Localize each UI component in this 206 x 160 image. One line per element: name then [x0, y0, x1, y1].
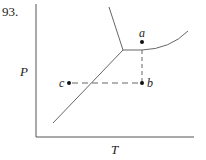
point-a	[140, 40, 144, 44]
point-b	[140, 81, 144, 85]
point-b-label: b	[147, 76, 153, 90]
point-c-label: c	[59, 76, 65, 90]
problem-number: 93.	[2, 4, 18, 19]
x-axis-label: T	[111, 142, 119, 157]
point-a-label: a	[139, 26, 145, 40]
solid-liquid-boundary	[109, 7, 123, 50]
liquid-vapor-boundary	[123, 31, 188, 50]
phase-diagram: 93. P T a b c	[0, 0, 206, 160]
y-axis-label: P	[19, 64, 28, 79]
point-c	[67, 81, 71, 85]
